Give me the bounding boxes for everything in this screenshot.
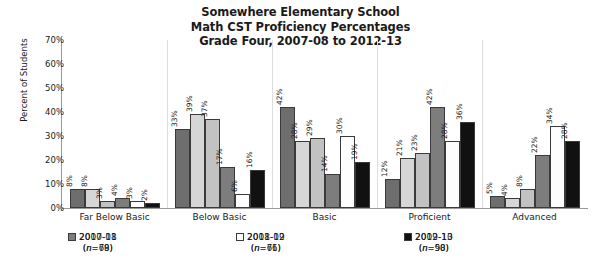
bar-value-label: 5% xyxy=(486,182,494,194)
bar-value-label: 39% xyxy=(186,96,194,113)
legend-label: 2011-12 xyxy=(247,232,285,243)
x-axis-category-label: Advanced xyxy=(482,212,587,222)
y-axis-tick-mark xyxy=(58,208,62,209)
bar-group: 8%8%3%4%3%2% xyxy=(62,40,167,208)
bar-value-label: 19% xyxy=(351,144,359,161)
bar[interactable]: 39% xyxy=(190,114,205,208)
bar-value-label: 8% xyxy=(81,175,89,187)
bar[interactable]: 22% xyxy=(535,155,550,208)
bar-group: 42%28%29%14%30%19% xyxy=(272,40,377,208)
bar-value-label: 14% xyxy=(321,156,329,173)
bar[interactable]: 19% xyxy=(355,162,370,208)
legend-swatch-icon xyxy=(404,233,412,241)
x-axis-category-label: Basic xyxy=(272,212,377,222)
bar-value-label: 28% xyxy=(561,122,569,139)
bar[interactable]: 36% xyxy=(460,122,475,208)
legend-sample-size: (n=58) xyxy=(415,243,453,253)
bar-value-label: 28% xyxy=(291,122,299,139)
bar[interactable]: 29% xyxy=(310,138,325,208)
legend-item[interactable]: 2011-12(n=61) xyxy=(236,232,285,253)
bar-value-label: 42% xyxy=(276,89,284,106)
plot-area: 70%60%50%40%30%20%10%0%8%8%3%4%3%2%Far B… xyxy=(62,40,587,208)
bar[interactable]: 14% xyxy=(325,174,340,208)
chart-title-line-2: Math CST Proficiency Percentages xyxy=(0,20,601,35)
bar[interactable]: 8% xyxy=(70,189,85,208)
bar-value-label: 3% xyxy=(126,187,134,199)
bar-group: 5%4%8%22%34%28% xyxy=(482,40,587,208)
legend-swatch-icon xyxy=(68,233,76,241)
bar[interactable]: 12% xyxy=(385,179,400,208)
bar-value-label: 8% xyxy=(516,175,524,187)
bar-value-label: 17% xyxy=(216,149,224,166)
bar-value-label: 36% xyxy=(456,103,464,120)
legend-item[interactable]: 2010-11(n=69) xyxy=(68,232,117,253)
bar[interactable]: 4% xyxy=(115,198,130,208)
bar-value-label: 4% xyxy=(111,185,119,197)
legend-swatch-icon xyxy=(236,233,244,241)
bar[interactable]: 28% xyxy=(445,141,460,208)
bar-value-label: 3% xyxy=(96,187,104,199)
chart-legend: 2007-08(n=78)2008-09(n=76)2009-10(n=90)2… xyxy=(0,232,601,266)
bar-value-label: 2% xyxy=(141,189,149,201)
x-axis-category-label: Far Below Basic xyxy=(62,212,167,222)
bar[interactable]: 21% xyxy=(400,158,415,208)
bar-value-label: 22% xyxy=(531,137,539,154)
bar-value-label: 8% xyxy=(66,175,74,187)
bar-value-label: 42% xyxy=(426,89,434,106)
chart-title-line-1: Somewhere Elementary School xyxy=(0,5,601,20)
bar-value-label: 29% xyxy=(306,120,314,137)
bar-value-label: 16% xyxy=(246,151,254,168)
bar-value-label: 34% xyxy=(546,108,554,125)
bar[interactable]: 33% xyxy=(175,129,190,208)
bar-value-label: 4% xyxy=(501,185,509,197)
bar-value-label: 12% xyxy=(381,161,389,178)
bar[interactable]: 2% xyxy=(145,203,160,208)
x-axis-line xyxy=(61,208,588,209)
x-axis-category-label: Below Basic xyxy=(167,212,272,222)
bar[interactable]: 3% xyxy=(100,201,115,208)
bar-group: 12%21%23%42%28%36% xyxy=(377,40,482,208)
bar-group: 33%39%37%17%6%16% xyxy=(167,40,272,208)
legend-item[interactable]: 2012-13(n=58) xyxy=(404,232,453,253)
bar-value-label: 37% xyxy=(201,101,209,118)
bar[interactable]: 5% xyxy=(490,196,505,208)
bar-value-label: 33% xyxy=(171,110,179,127)
legend-sample-size: (n=69) xyxy=(79,243,117,253)
bar[interactable]: 6% xyxy=(235,194,250,208)
bar[interactable]: 16% xyxy=(250,170,265,208)
bar[interactable]: 28% xyxy=(565,141,580,208)
bar[interactable]: 3% xyxy=(130,201,145,208)
bar[interactable]: 28% xyxy=(295,141,310,208)
bar[interactable]: 4% xyxy=(505,198,520,208)
legend-sample-size: (n=61) xyxy=(247,243,285,253)
bar-value-label: 21% xyxy=(396,139,404,156)
x-axis-category-label: Proficient xyxy=(377,212,482,222)
bar[interactable]: 8% xyxy=(520,189,535,208)
bar-value-label: 23% xyxy=(411,134,419,151)
legend-label: 2010-11 xyxy=(79,232,117,243)
bar[interactable]: 23% xyxy=(415,153,430,208)
bar-value-label: 6% xyxy=(231,180,239,192)
legend-label: 2012-13 xyxy=(415,232,453,243)
bar-value-label: 28% xyxy=(441,122,449,139)
bar-value-label: 30% xyxy=(336,117,344,134)
